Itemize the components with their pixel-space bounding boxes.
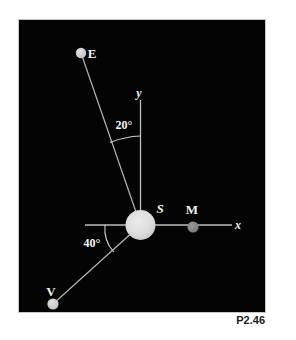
orbital-diagram: S E M V y x 20° 40° P2.46 xyxy=(0,0,296,340)
label-y-axis: y xyxy=(134,86,142,100)
panel-background xyxy=(19,20,265,312)
label-earth: E xyxy=(88,46,97,61)
label-earth-angle: 20° xyxy=(116,118,133,132)
body-earth xyxy=(76,48,86,58)
body-sun xyxy=(126,210,156,240)
figure-caption: P2.46 xyxy=(236,314,265,326)
label-x-axis: x xyxy=(234,218,241,232)
label-mars: M xyxy=(186,202,198,217)
label-sun: S xyxy=(156,201,163,216)
figure-root: S E M V y x 20° 40° P2.46 xyxy=(0,0,296,340)
body-venus xyxy=(47,298,58,309)
body-mars xyxy=(187,221,198,232)
label-venus-angle: 40° xyxy=(84,236,101,250)
label-venus: V xyxy=(46,284,56,299)
